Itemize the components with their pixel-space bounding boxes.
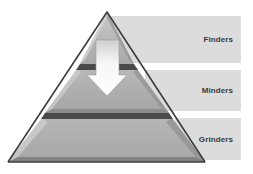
tier-grinders [8, 118, 205, 162]
pyramid-graphic [0, 0, 253, 174]
pyramid-diagram: Finders Minders Grinders [0, 0, 253, 174]
tier-divider-2 [41, 113, 173, 119]
